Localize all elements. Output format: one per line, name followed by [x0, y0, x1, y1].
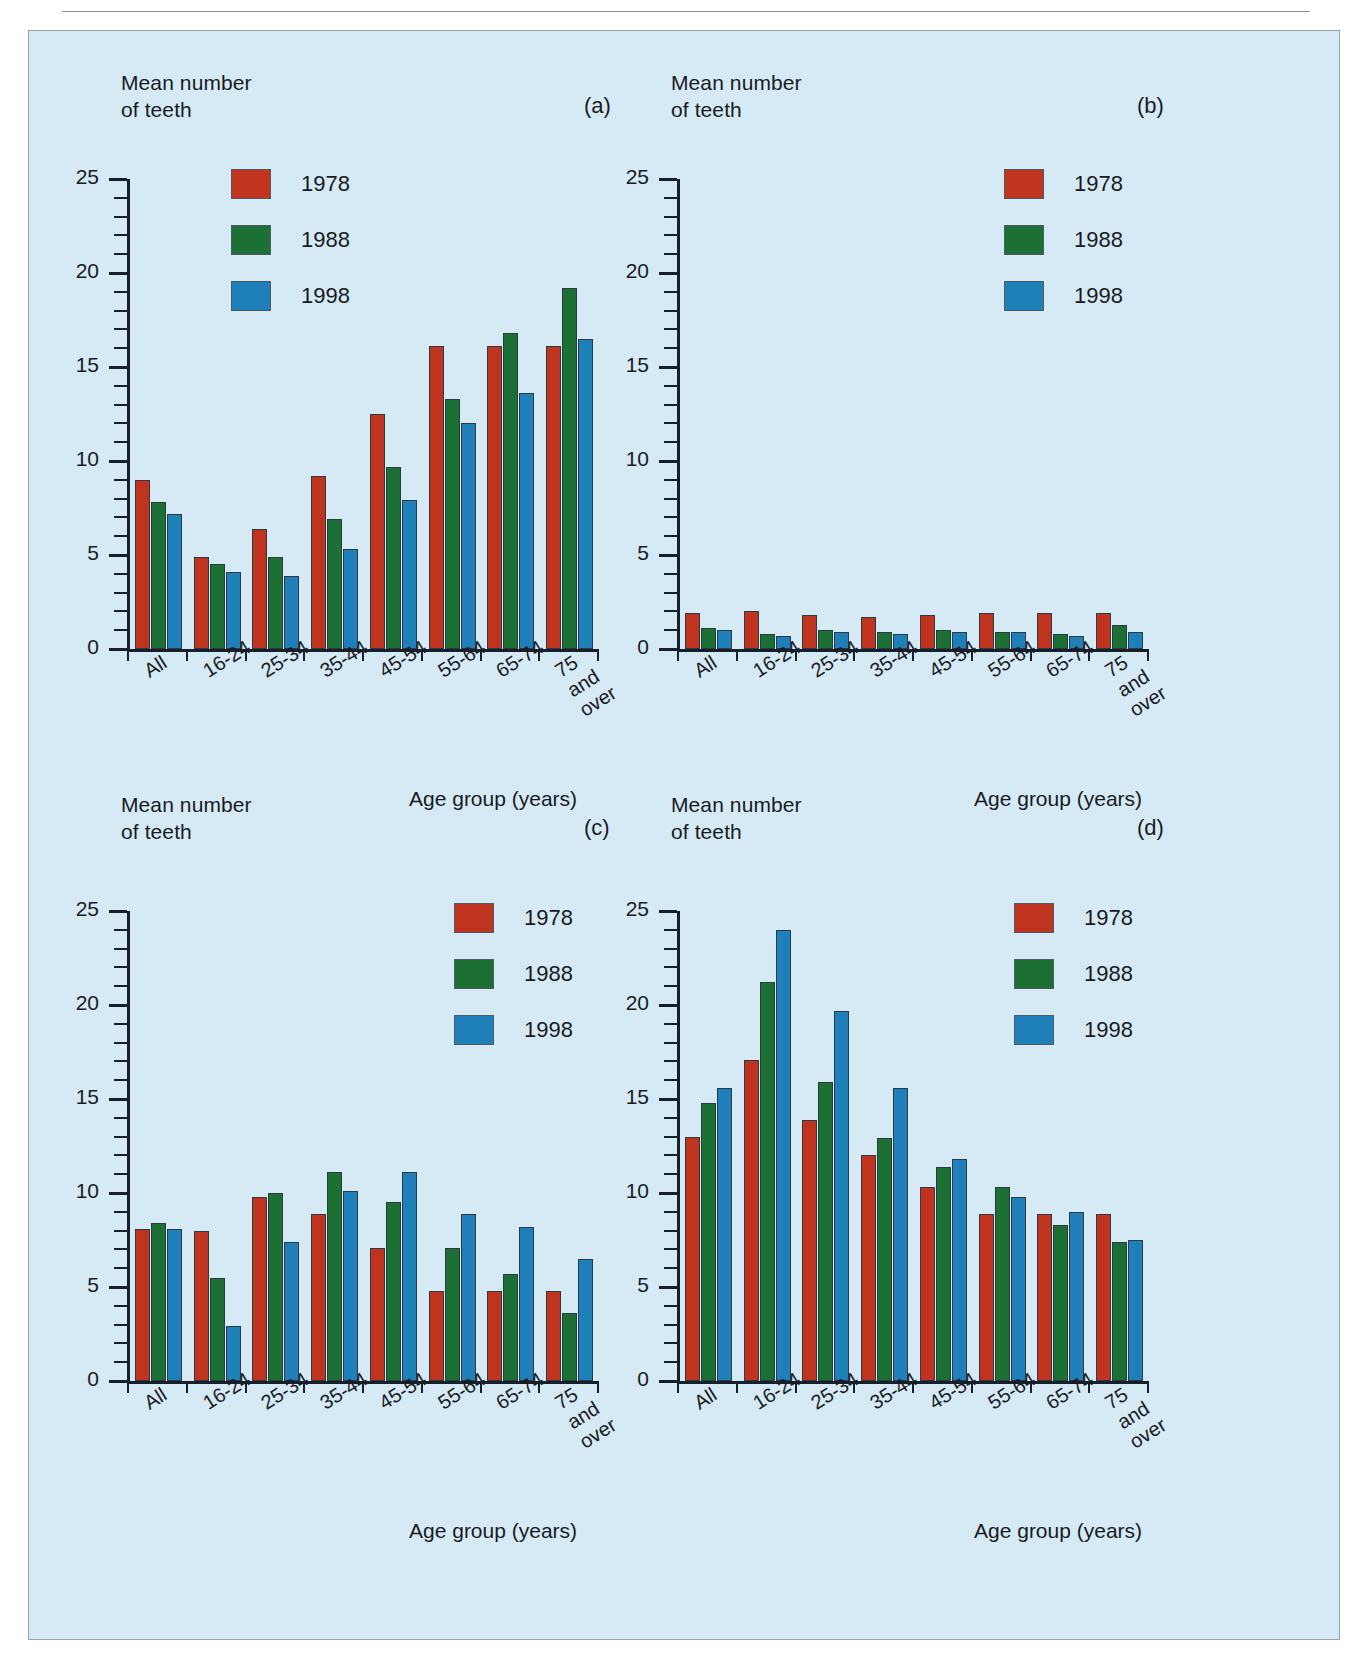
y-tick-minor [664, 1211, 677, 1213]
y-tick-minor [664, 441, 677, 443]
bar [861, 617, 876, 649]
y-tick-minor [664, 966, 677, 968]
y-tick-minor [664, 347, 677, 349]
x-tick [127, 649, 129, 661]
x-tick [245, 1381, 247, 1393]
y-tick-major [109, 460, 127, 463]
y-tick-label: 10 [603, 1179, 649, 1203]
y-tick-minor [114, 948, 127, 950]
y-tick-major [109, 1286, 127, 1289]
y-tick-minor [664, 929, 677, 931]
bar [760, 982, 775, 1381]
bar [210, 564, 225, 649]
x-tick [677, 649, 679, 661]
x-axis-label: All [690, 1383, 721, 1414]
bar [343, 1191, 358, 1381]
y-tick-minor [664, 291, 677, 293]
y-tick-minor [114, 1361, 127, 1363]
bar [546, 1291, 561, 1381]
bar [151, 1223, 166, 1381]
y-tick-label: 5 [53, 1273, 99, 1297]
y-tick-minor [664, 1023, 677, 1025]
y-tick-minor [664, 216, 677, 218]
y-tick-minor [114, 966, 127, 968]
y-tick-minor [114, 328, 127, 330]
bar [776, 930, 791, 1381]
x-tick [795, 649, 797, 661]
x-tick [480, 1381, 482, 1393]
bar [744, 1060, 759, 1381]
chart-panel-c: Mean number of teeth (c) 1978 1988 1998 [79, 791, 679, 1581]
panel-label-d: (d) [1137, 815, 1164, 841]
bar [546, 346, 561, 649]
bar [877, 1138, 892, 1381]
x-tick [736, 649, 738, 661]
axes: 0510152025All16-2425-3435-4445-5455-6465… [127, 179, 597, 649]
page-top-rule [62, 11, 1310, 12]
x-tick [1088, 649, 1090, 661]
y-tick-major [109, 910, 127, 913]
y-tick-label: 15 [603, 353, 649, 377]
x-tick [303, 1381, 305, 1393]
y-tick-minor [664, 385, 677, 387]
bar [1112, 625, 1127, 649]
x-tick [362, 1381, 364, 1393]
bar [402, 500, 417, 649]
x-tick [421, 1381, 423, 1393]
y-tick-minor [664, 516, 677, 518]
bar [327, 519, 342, 649]
chart-panel-a: Mean number of teeth (a) 1978 1988 1998 [79, 69, 679, 809]
x-tick [1030, 1381, 1032, 1393]
y-tick-minor [664, 479, 677, 481]
bar [135, 1229, 150, 1381]
x-axis-title-d: Age group (years) [974, 1519, 1142, 1543]
x-tick [303, 649, 305, 661]
chart-panel-d: Mean number of teeth (d) 1978 1988 1998 [629, 791, 1289, 1581]
plot-area-d: 0510152025All16-2425-3435-4445-5455-6465… [677, 911, 1147, 1381]
y-tick-minor [664, 1248, 677, 1250]
bar [167, 514, 182, 649]
y-tick-minor [114, 1117, 127, 1119]
y-tick-minor [664, 1117, 677, 1119]
y-tick-major [659, 554, 677, 557]
y-tick-minor [664, 253, 677, 255]
x-tick [480, 649, 482, 661]
bar [519, 1227, 534, 1381]
bar [1037, 1214, 1052, 1381]
x-tick [1147, 1381, 1149, 1393]
bar [802, 1120, 817, 1381]
y-tick-minor [664, 197, 677, 199]
y-tick-label: 25 [53, 897, 99, 921]
x-tick [795, 1381, 797, 1393]
y-tick-minor [114, 422, 127, 424]
x-tick [421, 649, 423, 661]
x-axis-label: All [140, 651, 171, 682]
bar [952, 1159, 967, 1381]
panel-label-b: (b) [1137, 93, 1164, 119]
bar [1011, 1197, 1026, 1381]
x-tick [597, 649, 599, 661]
y-tick-minor [114, 1324, 127, 1326]
y-tick-label: 5 [603, 541, 649, 565]
panel-label-a: (a) [584, 93, 611, 119]
y-tick-minor [664, 422, 677, 424]
y-tick-minor [114, 216, 127, 218]
y-tick-minor [114, 985, 127, 987]
bar [920, 1187, 935, 1381]
y-tick-label: 15 [53, 1085, 99, 1109]
bar [445, 1248, 460, 1381]
panel-label-c: (c) [584, 815, 610, 841]
y-tick-major [659, 1004, 677, 1007]
bar [252, 1197, 267, 1381]
bar [311, 1214, 326, 1381]
bar [717, 630, 732, 649]
bar [893, 1088, 908, 1381]
y-tick-minor [114, 253, 127, 255]
y-tick-minor [114, 1079, 127, 1081]
bar [284, 1242, 299, 1381]
y-tick-minor [664, 535, 677, 537]
bar [386, 467, 401, 649]
y-tick-label: 25 [53, 165, 99, 189]
y-tick-minor [664, 1154, 677, 1156]
bar [1037, 613, 1052, 649]
